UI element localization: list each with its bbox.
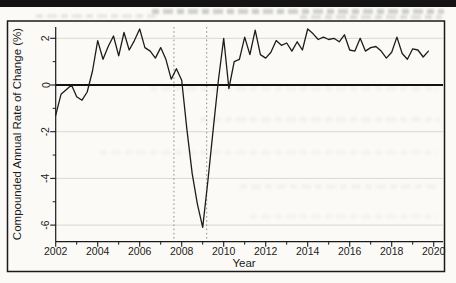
y-tick-label: -6 — [40, 220, 52, 229]
data-series-line — [56, 29, 429, 227]
x-tick-label: 2014 — [296, 245, 320, 257]
x-tick-label: 2008 — [170, 245, 194, 257]
y-axis-title: Compounded Annual Rate of Change (%) — [11, 28, 23, 240]
x-tick-label: 2018 — [380, 245, 404, 257]
chart-svg: 20-2-4-620022004200620082010201220142016… — [0, 0, 456, 283]
x-tick-label: 2016 — [338, 245, 362, 257]
y-tick-label: 0 — [40, 82, 52, 88]
x-tick-label: 2020 — [422, 245, 446, 257]
x-axis-title: Year — [232, 257, 255, 269]
x-tick-label: 2004 — [86, 245, 110, 257]
x-tick-label: 2010 — [212, 245, 236, 257]
x-tick-label: 2006 — [128, 245, 152, 257]
x-tick-label: 2002 — [44, 245, 68, 257]
y-tick-label: -2 — [40, 127, 52, 136]
y-tick-label: 2 — [40, 35, 52, 41]
y-tick-label: -4 — [40, 174, 52, 183]
x-tick-label: 2012 — [254, 245, 278, 257]
